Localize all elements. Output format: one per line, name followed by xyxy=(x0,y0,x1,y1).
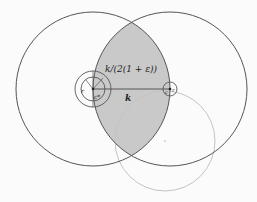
circles-diagram: k/(2(1 + ε)) k r c* r c xyxy=(0,0,257,202)
faint-circle-center xyxy=(164,140,166,142)
left-r-label: r xyxy=(81,87,85,94)
left-radius-line-1 xyxy=(86,80,93,89)
left-c-label: c* xyxy=(94,93,100,100)
left-center-point xyxy=(92,88,95,91)
radius-label: k/(2(1 + ε)) xyxy=(105,64,158,74)
right-center-point xyxy=(169,88,172,91)
right-c-label: c xyxy=(165,89,168,95)
distance-label: k xyxy=(125,93,131,103)
diagram: k/(2(1 + ε)) k r c* r c xyxy=(0,0,257,202)
